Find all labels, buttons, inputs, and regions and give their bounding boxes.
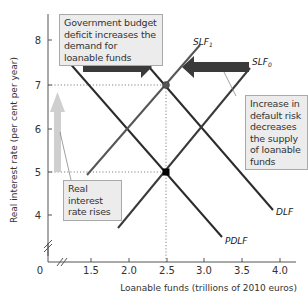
x-tick-1.5: 1.5 — [83, 265, 99, 276]
x-tick-0: 0 — [37, 265, 43, 276]
x-tick-3.5: 3.5 — [234, 265, 250, 276]
equilibrium-initial-point — [163, 169, 170, 176]
equilibrium-new-point — [163, 82, 170, 89]
y-tick-5: 5 — [35, 167, 41, 178]
label-dlf: DLF — [276, 207, 294, 217]
guide-lines — [48, 85, 166, 262]
label-slf0: SLF0 — [252, 57, 272, 68]
label-pdlf: PDLF — [225, 236, 248, 246]
y-tick-6: 6 — [35, 124, 41, 135]
x-axis-title: Loanable funds (trillions of 2010 euros) — [120, 283, 297, 293]
rate-rises-annotation-box: Real interest rate rises — [63, 180, 122, 221]
rate-rises-arrow-icon — [50, 92, 65, 172]
label-slf1: SLF1 — [193, 37, 213, 48]
curve-slf0 — [118, 68, 250, 228]
x-tick-3.0: 3.0 — [196, 265, 212, 276]
supply-shift-arrow-icon — [182, 56, 249, 78]
y-tick-4: 4 — [35, 210, 41, 221]
y-tick-8: 8 — [35, 35, 41, 46]
deficit-annotation-box: Government budget deficit increases the … — [59, 14, 163, 66]
x-tick-2.5: 2.5 — [159, 265, 175, 276]
x-tick-4.0: 4.0 — [272, 265, 288, 276]
y-tick-7: 7 — [35, 80, 41, 91]
x-tick-2.0: 2.0 — [121, 265, 137, 276]
y-axis-title: Real interest rate (per cent per year) — [9, 57, 19, 223]
default-risk-annotation-box: Increase in default risk decreases the s… — [245, 95, 308, 170]
